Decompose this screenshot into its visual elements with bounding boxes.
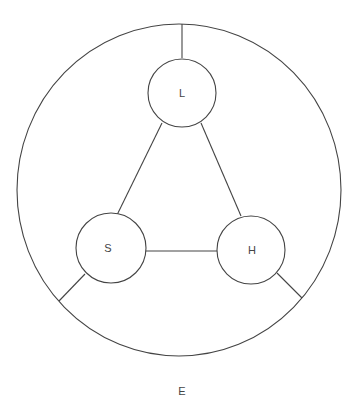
node-l: L: [148, 59, 216, 127]
edge-l-h: [201, 123, 241, 216]
shel-diagram: L S H E: [0, 0, 358, 398]
environment-label: E: [178, 385, 185, 397]
edge-s-boundary: [59, 274, 85, 301]
node-h-label: H: [248, 244, 256, 256]
edge-h-boundary: [277, 273, 302, 298]
edge-l-s: [117, 123, 162, 215]
node-l-label: L: [179, 87, 185, 99]
node-h: H: [217, 216, 285, 284]
node-s-label: S: [104, 242, 111, 254]
node-s: S: [76, 213, 146, 283]
